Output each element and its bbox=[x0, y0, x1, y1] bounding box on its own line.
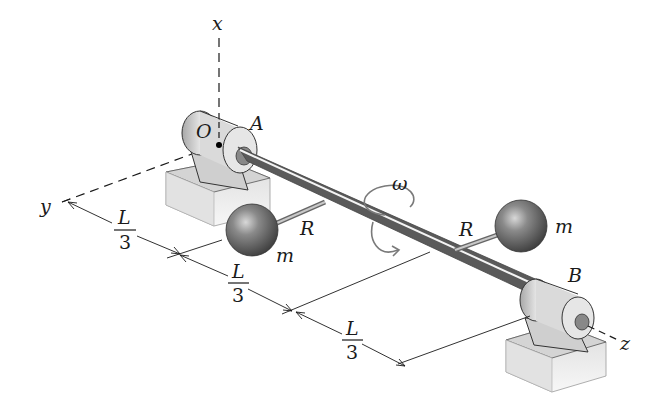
z-axis-label: z bbox=[619, 332, 631, 354]
mass-2-label: m bbox=[555, 215, 573, 237]
origin-label: O bbox=[196, 120, 212, 142]
mass-2-sphere bbox=[495, 200, 547, 252]
dimension-2: L 3 bbox=[228, 260, 249, 306]
dimension-3: L 3 bbox=[342, 317, 363, 363]
dimension-1: L 3 bbox=[114, 206, 136, 253]
arm-1-label: R bbox=[299, 217, 314, 239]
bearing-b-label: B bbox=[567, 264, 582, 286]
bearing-b bbox=[506, 279, 606, 392]
diagram-canvas: x y O A R m R m bbox=[0, 0, 661, 408]
svg-text:3: 3 bbox=[346, 341, 358, 363]
svg-text:L: L bbox=[231, 260, 245, 282]
omega-label: ω bbox=[392, 172, 408, 194]
x-axis-label: x bbox=[212, 12, 223, 34]
mass-1-sphere bbox=[226, 204, 278, 256]
shaft-diagram: x y O A R m R m bbox=[0, 0, 661, 408]
svg-text:L: L bbox=[345, 317, 359, 339]
svg-text:L: L bbox=[117, 206, 131, 228]
origin-point bbox=[216, 142, 222, 148]
svg-text:3: 3 bbox=[119, 231, 131, 253]
svg-text:3: 3 bbox=[232, 284, 244, 306]
arm-2-label: R bbox=[458, 218, 473, 240]
mass-1-label: m bbox=[276, 244, 294, 266]
bearing-a-label: A bbox=[248, 112, 264, 134]
y-axis-label: y bbox=[39, 195, 51, 217]
